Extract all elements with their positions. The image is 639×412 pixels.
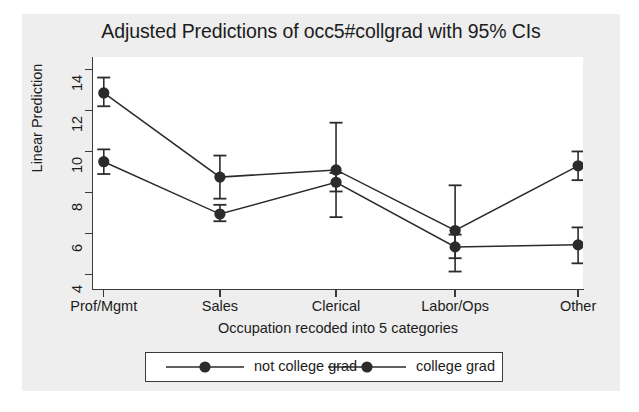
series-line — [104, 93, 578, 231]
y-tick — [85, 69, 92, 70]
x-tick — [219, 290, 220, 297]
x-tick — [577, 290, 578, 297]
x-tick-label: Prof/Mgmt — [70, 298, 137, 314]
series-college-grad — [97, 78, 583, 272]
y-tick — [85, 233, 92, 234]
chart-legend: not college grad college grad — [145, 352, 503, 382]
x-tick-label: Other — [560, 298, 596, 314]
data-point-marker — [573, 239, 584, 250]
x-axis-title: Occupation recoded into 5 categories — [93, 320, 583, 336]
data-point-marker — [330, 164, 341, 175]
x-tick — [103, 290, 104, 297]
y-tick-label: 14 — [69, 68, 85, 98]
data-point-marker — [98, 87, 109, 98]
y-tick — [85, 192, 92, 193]
y-axis-line — [92, 57, 93, 290]
y-tick — [85, 274, 92, 275]
legend-item-college-grad: college grad — [416, 358, 495, 374]
chart-figure: Adjusted Predictions of occ5#collgrad wi… — [0, 0, 639, 412]
x-tick-label: Labor/Ops — [421, 298, 489, 314]
x-tick — [454, 290, 455, 297]
data-point-marker — [214, 172, 225, 183]
data-point-marker — [573, 160, 584, 171]
data-point-marker — [98, 156, 109, 167]
data-series-svg — [93, 57, 583, 289]
y-tick — [85, 110, 92, 111]
x-axis-line — [92, 289, 584, 290]
plot-area — [93, 57, 583, 289]
data-point-marker — [214, 208, 225, 219]
x-tick-label: Clerical — [312, 298, 360, 314]
y-tick-label: 6 — [69, 233, 85, 263]
x-tick-label: Sales — [202, 298, 238, 314]
series-line — [104, 162, 578, 247]
y-tick-label: 10 — [69, 150, 85, 180]
x-tick — [335, 290, 336, 297]
legend-item-not-college-grad: not college grad — [254, 358, 357, 374]
y-axis-title: Linear Prediction — [29, 53, 45, 183]
chart-title: Adjusted Predictions of occ5#collgrad wi… — [22, 20, 620, 43]
y-tick — [85, 151, 92, 152]
y-tick-label: 8 — [69, 192, 85, 222]
legend-marker — [361, 361, 372, 372]
legend-marker — [199, 361, 210, 372]
data-point-marker — [450, 225, 461, 236]
y-tick-label: 12 — [69, 109, 85, 139]
